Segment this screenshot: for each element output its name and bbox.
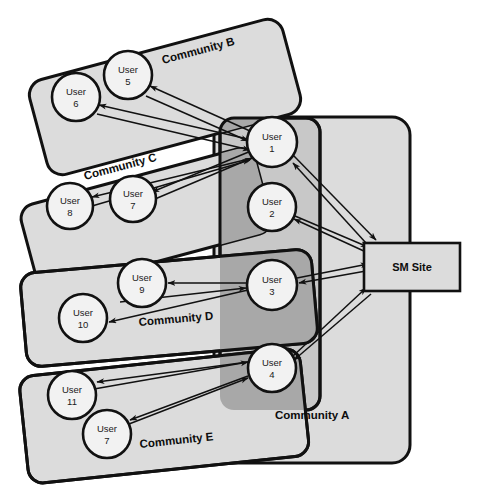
node-user-10[interactable]: User 10 — [59, 294, 107, 342]
node-user-8[interactable]: User 8 — [47, 183, 93, 229]
community-a-label: Community A — [275, 409, 349, 421]
node-user-10-line1: User — [73, 307, 93, 318]
node-user-5-line1: User — [118, 64, 138, 75]
node-user-8-line2: 8 — [67, 207, 72, 218]
node-user-3-line1: User — [262, 274, 282, 285]
node-user-7e-line2: 7 — [104, 435, 109, 446]
node-user-4-line2: 4 — [269, 369, 274, 380]
node-user-10-line2: 10 — [78, 319, 89, 330]
node-user-11[interactable]: User 11 — [48, 371, 96, 419]
node-user-3[interactable]: User 3 — [247, 260, 297, 310]
node-user-4-line1: User — [262, 357, 282, 368]
diagram-canvas: SM Site User 1 User 2 User 3 User 4 — [0, 0, 483, 503]
node-user-6-line2: 6 — [73, 98, 78, 109]
node-user-2[interactable]: User 2 — [248, 183, 296, 231]
sm-site-box[interactable]: SM Site — [364, 243, 460, 291]
node-user-3-line2: 3 — [269, 286, 274, 297]
node-user-7-community-c[interactable]: User 7 — [110, 176, 156, 222]
node-user-9-line1: User — [132, 272, 152, 283]
node-user-2-line2: 2 — [269, 208, 274, 219]
sm-site-label: SM Site — [392, 261, 432, 273]
node-user-11-line2: 11 — [67, 396, 77, 407]
community-network-diagram: SM Site User 1 User 2 User 3 User 4 — [0, 0, 483, 503]
node-user-5-line2: 5 — [125, 76, 130, 87]
node-user-9-line2: 9 — [139, 284, 144, 295]
node-user-11-line1: User — [62, 384, 82, 395]
node-user-6[interactable]: User 6 — [52, 73, 100, 121]
node-user-1-line1: User — [262, 131, 282, 142]
node-user-8-line1: User — [60, 195, 80, 206]
node-user-1-line2: 1 — [269, 143, 274, 154]
node-user-9[interactable]: User 9 — [118, 259, 166, 307]
node-user-7c-line2: 7 — [130, 200, 135, 211]
node-user-1[interactable]: User 1 — [247, 117, 297, 167]
node-user-7c-line1: User — [123, 188, 143, 199]
node-user-4[interactable]: User 4 — [248, 344, 296, 392]
node-user-6-line1: User — [66, 86, 86, 97]
node-user-7-community-e[interactable]: User 7 — [83, 410, 131, 458]
node-user-5[interactable]: User 5 — [104, 51, 152, 99]
node-user-7e-line1: User — [97, 423, 117, 434]
node-user-2-line1: User — [262, 196, 282, 207]
